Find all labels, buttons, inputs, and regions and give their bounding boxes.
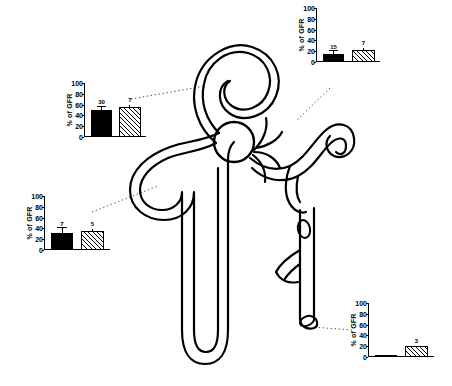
bar-hatched <box>119 107 141 137</box>
bar-solid <box>323 54 344 62</box>
connecting-segment-inner <box>297 176 300 202</box>
loop-of-henle-chart: % of GFR 100 80 60 40 20 0 7 5 <box>16 196 120 268</box>
y-axis-tick-labels: 100 80 60 40 20 0 <box>26 196 43 250</box>
leader-distal <box>296 88 330 121</box>
bar-label-solid: 30 <box>91 99 112 105</box>
error-bar-solid <box>62 228 63 233</box>
proximal-tubule-chart: % of GFR 100 80 60 40 20 0 30 7 <box>56 83 160 155</box>
bar-solid <box>375 355 397 357</box>
ascending-limb-right <box>228 142 234 160</box>
bar-hatched <box>81 231 104 250</box>
bar-label-solid: 7 <box>51 221 73 227</box>
error-bar-hatched <box>363 48 364 50</box>
y-axis-tick-labels: 100 80 60 40 20 0 <box>66 83 83 137</box>
arteriole-branch-2 <box>256 132 282 148</box>
proximal-tubule-outer <box>203 52 270 133</box>
y-axis-tick-labels: 100 80 60 40 20 0 <box>298 8 315 62</box>
plot-area: 30 7 <box>85 83 147 137</box>
collecting-duct-branch-inner <box>284 264 300 280</box>
error-bar-solid <box>101 107 102 110</box>
loop-of-henle-outer <box>182 160 228 364</box>
plot-area: 3 <box>369 303 435 357</box>
distal-tubule-chart: % of GFR 100 80 60 40 20 0 15 7 <box>288 8 392 80</box>
proximal-straight-inner <box>130 133 219 330</box>
bar-label-hatched: 5 <box>81 221 104 227</box>
y-axis-tick-labels: 100 80 60 40 20 0 <box>350 303 367 357</box>
bar-label-hatched: 7 <box>119 97 141 103</box>
error-bar-hatched <box>92 229 93 231</box>
bar-hatched <box>352 50 375 62</box>
plot-area: 7 5 <box>45 196 111 250</box>
arteriole-branch <box>253 155 265 182</box>
bar-label-hatched: 3 <box>405 338 428 344</box>
error-cap-solid <box>329 50 338 51</box>
proximal-straight-outer <box>140 143 216 330</box>
bar-solid <box>91 110 112 137</box>
loop-of-henle-inner <box>194 168 218 352</box>
error-bar-hatched <box>129 105 130 107</box>
plot-area: 15 7 <box>317 8 381 62</box>
bar-label-hatched: 7 <box>352 40 375 46</box>
bar-hatched <box>405 346 428 357</box>
error-bar-solid <box>333 51 334 54</box>
cortical-loop <box>296 219 311 239</box>
error-cap-solid <box>97 106 106 107</box>
collecting-duct-branch-outer <box>276 250 300 272</box>
error-cap-solid <box>57 227 67 228</box>
bar-solid <box>51 233 73 250</box>
bar-label-solid: 15 <box>323 44 344 50</box>
collecting-duct-chart: % of GFR 100 80 60 40 20 0 3 <box>340 303 444 375</box>
